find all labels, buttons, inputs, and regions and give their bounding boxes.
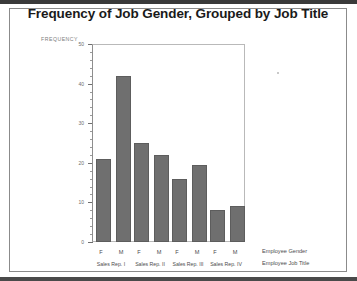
x-group-label-3: Sales Rep. IV: [203, 261, 249, 267]
jobtitle-axis-title: Employee Job Title: [262, 260, 309, 266]
x-gender-label-2: F: [129, 249, 149, 255]
scan-band-bottom: [0, 277, 357, 281]
y-tick-label-0: 0: [64, 239, 84, 245]
y-tick-label-30: 30: [64, 120, 84, 126]
x-gender-label-4: F: [167, 249, 187, 255]
x-gender-label-0: F: [91, 249, 111, 255]
y-tick-label-50: 50: [64, 41, 84, 47]
plot-area: [92, 44, 245, 242]
bar-sales-rep-ii-f: [134, 143, 149, 242]
x-gender-label-6: F: [205, 249, 225, 255]
bar-sales-rep-i-m: [116, 76, 131, 242]
scan-artifact-mark: [277, 72, 279, 74]
y-tick-0: [88, 242, 93, 243]
y-tick-label-40: 40: [64, 81, 84, 87]
x-gender-label-1: M: [111, 249, 131, 255]
bar-sales-rep-iii-f: [172, 179, 187, 242]
y-tick-label-20: 20: [64, 160, 84, 166]
gender-axis-title: Employee Gender: [262, 248, 307, 254]
bar-sales-rep-iv-m: [230, 206, 245, 242]
bar-sales-rep-i-f: [96, 159, 111, 242]
y-tick-label-10: 10: [64, 199, 84, 205]
x-gender-label-7: M: [225, 249, 245, 255]
x-gender-label-3: M: [149, 249, 169, 255]
x-gender-label-5: M: [187, 249, 207, 255]
bar-sales-rep-ii-m: [154, 155, 169, 242]
scan-band-top: [0, 0, 357, 4]
bar-sales-rep-iii-m: [192, 165, 207, 242]
chart-title: Frequency of Job Gender, Grouped by Job …: [9, 6, 347, 21]
bar-sales-rep-iv-f: [210, 210, 225, 242]
